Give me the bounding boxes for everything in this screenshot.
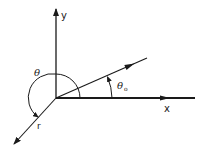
- x-axis: [56, 96, 195, 101]
- theta0-subscript: o: [124, 85, 128, 92]
- y-axis-label: y: [61, 10, 67, 21]
- x-axis-label: x: [164, 103, 170, 114]
- r-label: r: [37, 121, 41, 131]
- theta0-ray-arrow-icon: [124, 64, 134, 71]
- x-axis-arrow-icon: [160, 96, 170, 101]
- r-ray: [14, 98, 56, 144]
- polar-angle-diagram: y x θ θ o r: [0, 0, 204, 153]
- theta-arc: [28, 74, 56, 117]
- theta-label: θ: [34, 67, 40, 78]
- theta0-label: θ: [117, 80, 123, 91]
- theta0-arc: [108, 77, 113, 98]
- theta-start-arc: [56, 74, 80, 98]
